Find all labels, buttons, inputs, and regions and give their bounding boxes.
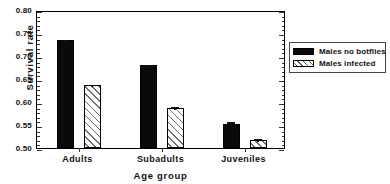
legend-item[interactable]: Males no botflies: [293, 46, 382, 57]
y-tick-label: 0.55: [8, 122, 32, 130]
axis-tick: [282, 76, 285, 77]
chart-legend: Males no botfliesMales infected: [289, 42, 386, 73]
axis-tick: [37, 58, 42, 59]
axis-tick: [37, 30, 40, 31]
axis-tick: [37, 95, 40, 96]
axis-tick: [37, 81, 42, 82]
legend-label: Males infected: [319, 59, 376, 68]
axis-tick: [282, 63, 285, 64]
y-tick-label: 0.75: [8, 30, 32, 38]
axis-tick: [282, 21, 285, 22]
axis-tick: [37, 113, 40, 114]
axis-tick: [282, 30, 285, 31]
axis-tick: [37, 63, 40, 64]
error-bar-cap: [88, 85, 96, 86]
bar: [140, 65, 157, 148]
error-bar-cap: [61, 40, 69, 41]
y-tick-label: 0.65: [8, 76, 32, 84]
axis-tick: [37, 145, 40, 146]
axis-tick: [37, 53, 40, 54]
axis-tick: [282, 90, 285, 91]
axis-tick: [37, 122, 40, 123]
axis-tick: [282, 53, 285, 54]
legend-label: Males no botflies: [319, 47, 386, 56]
axis-tick: [37, 104, 42, 105]
x-axis-tick: [79, 148, 80, 152]
y-axis-tick-labels: 0.800.750.700.650.600.550.50: [6, 0, 32, 184]
x-axis-tick: [162, 148, 163, 152]
axis-tick: [37, 86, 40, 87]
x-axis-title: Age group: [36, 170, 285, 181]
axis-tick: [37, 99, 40, 100]
error-bar-cap: [171, 107, 179, 108]
axis-tick: [37, 127, 42, 128]
axis-tick: [282, 67, 285, 68]
axis-tick: [37, 49, 40, 50]
error-bar-cap: [227, 122, 235, 123]
axis-tick: [279, 127, 284, 128]
x-category-label: Subadults: [137, 154, 184, 164]
bar: [223, 124, 240, 148]
axis-tick: [282, 122, 285, 123]
axis-tick: [282, 86, 285, 87]
axis-tick: [282, 44, 285, 45]
axis-tick: [37, 136, 40, 137]
axis-tick: [37, 35, 42, 36]
x-category-label: Juveniles: [221, 154, 266, 164]
axis-tick: [37, 40, 40, 41]
axis-tick: [279, 81, 284, 82]
axis-tick: [282, 118, 285, 119]
axis-tick: [37, 12, 42, 13]
axis-tick: [282, 132, 285, 133]
chart-figure: Survival rate 0.800.750.700.650.600.550.…: [0, 0, 390, 184]
axis-tick: [37, 109, 40, 110]
axis-tick: [37, 90, 40, 91]
axis-tick: [279, 150, 284, 151]
axis-tick: [282, 109, 285, 110]
axis-tick: [282, 40, 285, 41]
legend-item[interactable]: Males infected: [293, 58, 382, 69]
axis-tick: [37, 26, 40, 27]
bar: [84, 85, 101, 148]
axis-tick: [279, 58, 284, 59]
x-category-label: Adults: [62, 154, 92, 164]
axis-tick: [37, 67, 40, 68]
axis-tick: [37, 44, 40, 45]
axis-tick: [37, 141, 40, 142]
axis-tick: [279, 35, 284, 36]
axis-tick: [282, 95, 285, 96]
y-tick-label: 0.50: [8, 145, 32, 153]
axis-tick: [282, 113, 285, 114]
axis-tick: [37, 17, 40, 18]
bar: [57, 40, 74, 148]
y-tick-label: 0.60: [8, 99, 32, 107]
axis-tick: [282, 26, 285, 27]
error-bar-cap: [144, 65, 152, 66]
plot-area: [36, 11, 285, 149]
y-tick-label: 0.70: [8, 53, 32, 61]
axis-tick: [37, 72, 40, 73]
legend-swatch-icon: [293, 48, 314, 56]
axis-tick: [282, 99, 285, 100]
axis-tick: [282, 145, 285, 146]
error-bar-cap: [254, 139, 262, 140]
axis-tick: [37, 118, 40, 119]
bar: [167, 108, 184, 148]
axis-tick: [37, 21, 40, 22]
axis-tick: [282, 136, 285, 137]
figure-title: [60, 0, 260, 4]
axis-tick: [279, 12, 284, 13]
axis-tick: [279, 104, 284, 105]
axis-tick: [282, 49, 285, 50]
axis-tick: [37, 132, 40, 133]
x-axis-tick: [245, 148, 246, 152]
axis-tick: [37, 150, 42, 151]
axis-tick: [282, 72, 285, 73]
axis-tick: [282, 141, 285, 142]
axis-tick: [37, 76, 40, 77]
legend-swatch-icon: [293, 60, 314, 68]
y-tick-label: 0.80: [8, 7, 32, 15]
axis-tick: [282, 17, 285, 18]
